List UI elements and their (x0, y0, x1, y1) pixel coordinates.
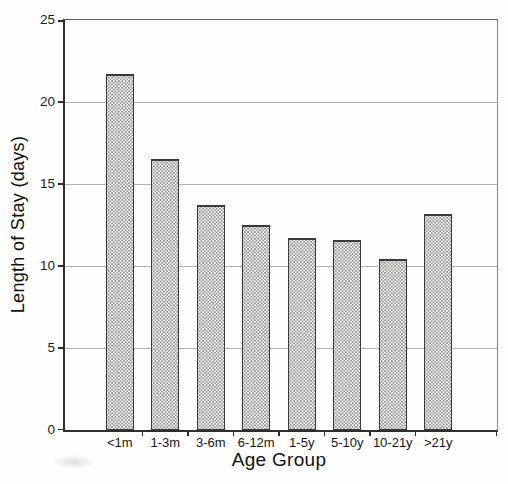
y-axis-tick (58, 101, 65, 103)
bar-chart-figure: Length of Stay (days) 0510152025<1m1-3m3… (0, 0, 508, 484)
bar-10-21y (379, 259, 407, 430)
x-tick-label: 1-3m (150, 435, 180, 450)
y-tick-label: 10 (40, 258, 55, 273)
y-axis-tick (58, 429, 65, 431)
x-axis-title: Age Group (63, 449, 495, 471)
x-tick-label: >21y (424, 435, 453, 450)
plot-area: 0510152025<1m1-3m3-6m6-12m1-5y5-10y10-21… (63, 19, 498, 432)
x-axis-tick (278, 430, 280, 436)
x-tick-label: 3-6m (196, 435, 226, 450)
x-tick-label: 10-21y (373, 435, 413, 450)
x-axis-tick (369, 430, 371, 436)
bar-5-10y (333, 240, 361, 430)
y-tick-label: 25 (40, 12, 55, 27)
bar-3-6m (197, 205, 225, 430)
x-axis-tick (324, 430, 326, 436)
x-axis-tick (142, 430, 144, 436)
y-tick-label: 20 (40, 94, 55, 109)
y-axis-tick (58, 183, 65, 185)
y-tick-label: 5 (47, 340, 55, 355)
scan-artifact (52, 455, 96, 469)
y-tick-label: 0 (47, 422, 55, 437)
x-tick-label: 1-5y (289, 435, 314, 450)
bar-1-5y (288, 238, 316, 430)
y-axis-tick (58, 265, 65, 267)
y-axis-tick (58, 347, 65, 349)
y-axis-title-text: Length of Stay (days) (9, 135, 30, 312)
bar->21y (424, 214, 452, 430)
bar-6-12m (242, 225, 270, 430)
y-axis-tick (58, 20, 65, 22)
x-tick-label: 5-10y (331, 435, 364, 450)
x-tick-label: 6-12m (238, 435, 275, 450)
y-tick-label: 15 (40, 176, 55, 191)
bar-1-3m (151, 159, 179, 430)
x-axis-tick (415, 430, 417, 436)
x-axis-end-tick (496, 430, 498, 436)
x-axis-tick (187, 430, 189, 436)
y-axis-title: Length of Stay (days) (0, 19, 38, 429)
bar-<1m (106, 74, 134, 430)
x-axis-tick (233, 430, 235, 436)
x-tick-label: <1m (107, 435, 133, 450)
